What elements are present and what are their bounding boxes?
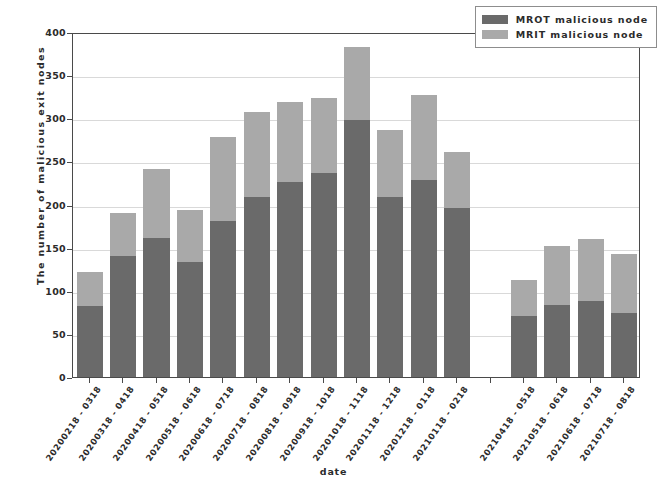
bar-segment-mrit[interactable] [277, 102, 303, 182]
bar-segment-mrit[interactable] [244, 112, 270, 197]
bar-segment-mrot[interactable] [377, 197, 403, 377]
x-axis-tick-mark [323, 378, 324, 383]
bar-segment-mrit[interactable] [578, 239, 604, 301]
y-axis-tick-label: 300 [26, 113, 66, 124]
bar-group[interactable] [411, 95, 437, 377]
x-axis-tick-mark [523, 378, 524, 383]
bar-segment-mrot[interactable] [344, 120, 370, 377]
bar-segment-mrit[interactable] [377, 130, 403, 196]
bar-segment-mrit[interactable] [110, 213, 136, 256]
bar-group[interactable] [611, 254, 637, 377]
chart-legend: MROT malicious nodeMRIT malicious node [475, 6, 657, 48]
y-axis-tick-label: 200 [26, 200, 66, 211]
bar-segment-mrit[interactable] [177, 210, 203, 263]
bar-group[interactable] [277, 102, 303, 377]
bar-group[interactable] [511, 280, 537, 377]
x-axis-tick-mark [156, 378, 157, 383]
legend-swatch [482, 30, 508, 39]
x-axis-tick-mark [356, 378, 357, 383]
bar-segment-mrit[interactable] [210, 137, 236, 221]
y-axis-tick-label: 100 [26, 286, 66, 297]
bar-segment-mrit[interactable] [143, 169, 169, 238]
bar-segment-mrit[interactable] [544, 246, 570, 305]
bar-segment-mrot[interactable] [578, 301, 604, 377]
bar-segment-mrot[interactable] [277, 182, 303, 377]
legend-swatch [482, 15, 508, 24]
bar-segment-mrot[interactable] [511, 316, 537, 377]
bar-segment-mrit[interactable] [311, 98, 337, 173]
y-axis-title: The number of malicious exit nodes [35, 6, 46, 326]
x-axis-tick-mark [89, 378, 90, 383]
x-axis-tick-labels: 20200218 - 031820200318 - 041820200418 -… [72, 384, 640, 474]
bar-segment-mrot[interactable] [544, 305, 570, 377]
legend-label: MROT malicious node [516, 14, 648, 25]
x-axis-tick-mark [389, 378, 390, 383]
legend-label: MRIT malicious node [516, 29, 644, 40]
y-axis-tick-label: 400 [26, 27, 66, 38]
bar-chart-figure: 050100150200250300350400 The number of m… [0, 0, 667, 500]
legend-item: MRIT malicious node [482, 27, 648, 42]
bar-segment-mrot[interactable] [444, 208, 470, 377]
x-axis-title: date [0, 466, 667, 477]
bar-group[interactable] [578, 239, 604, 377]
y-axis-tick-label: 250 [26, 156, 66, 167]
bar-segment-mrot[interactable] [311, 173, 337, 377]
bar-group[interactable] [344, 47, 370, 377]
x-axis-tick-mark [222, 378, 223, 383]
bar-group[interactable] [77, 272, 103, 377]
x-axis-tick-mark [623, 378, 624, 383]
bar-segment-mrot[interactable] [210, 221, 236, 377]
y-axis-tick-label: 350 [26, 70, 66, 81]
bar-segment-mrot[interactable] [244, 197, 270, 377]
bar-segment-mrot[interactable] [411, 180, 437, 378]
bar-segment-mrit[interactable] [444, 152, 470, 208]
bar-group[interactable] [244, 112, 270, 377]
bars-layer [73, 34, 639, 377]
bar-group[interactable] [210, 137, 236, 377]
x-axis-tick-label: 20200218 - 0318 [43, 384, 102, 463]
bar-segment-mrot[interactable] [611, 313, 637, 377]
x-axis-tick-mark [189, 378, 190, 383]
x-axis-tick-label: 20210418 - 0518 [478, 384, 537, 463]
x-axis-tick-mark [590, 378, 591, 383]
bar-group[interactable] [311, 98, 337, 377]
bar-segment-mrit[interactable] [411, 95, 437, 180]
bar-segment-mrit[interactable] [511, 280, 537, 316]
x-axis-tick-mark [456, 378, 457, 383]
x-axis-tick-mark [256, 378, 257, 383]
bar-segment-mrot[interactable] [77, 306, 103, 377]
bar-segment-mrot[interactable] [143, 238, 169, 377]
x-axis-tick-mark [556, 378, 557, 383]
bar-group[interactable] [444, 152, 470, 377]
y-axis-tick-label: 50 [26, 329, 66, 340]
y-axis-tick-label: 150 [26, 243, 66, 254]
x-axis-tick-mark [423, 378, 424, 383]
y-axis-tick-label: 0 [26, 372, 66, 383]
bar-segment-mrot[interactable] [177, 262, 203, 377]
bar-segment-mrot[interactable] [110, 256, 136, 377]
bar-segment-mrit[interactable] [77, 272, 103, 307]
legend-item: MROT malicious node [482, 12, 648, 27]
bar-segment-mrit[interactable] [611, 254, 637, 314]
x-axis-tick-mark [122, 378, 123, 383]
bar-group[interactable] [377, 130, 403, 377]
bar-segment-mrit[interactable] [344, 47, 370, 120]
bar-group[interactable] [110, 213, 136, 377]
bar-group[interactable] [177, 210, 203, 377]
plot-area [72, 33, 640, 378]
x-axis-tick-mark [490, 378, 491, 383]
bar-group[interactable] [544, 246, 570, 377]
x-axis-tick-mark [289, 378, 290, 383]
bar-group[interactable] [143, 169, 169, 377]
